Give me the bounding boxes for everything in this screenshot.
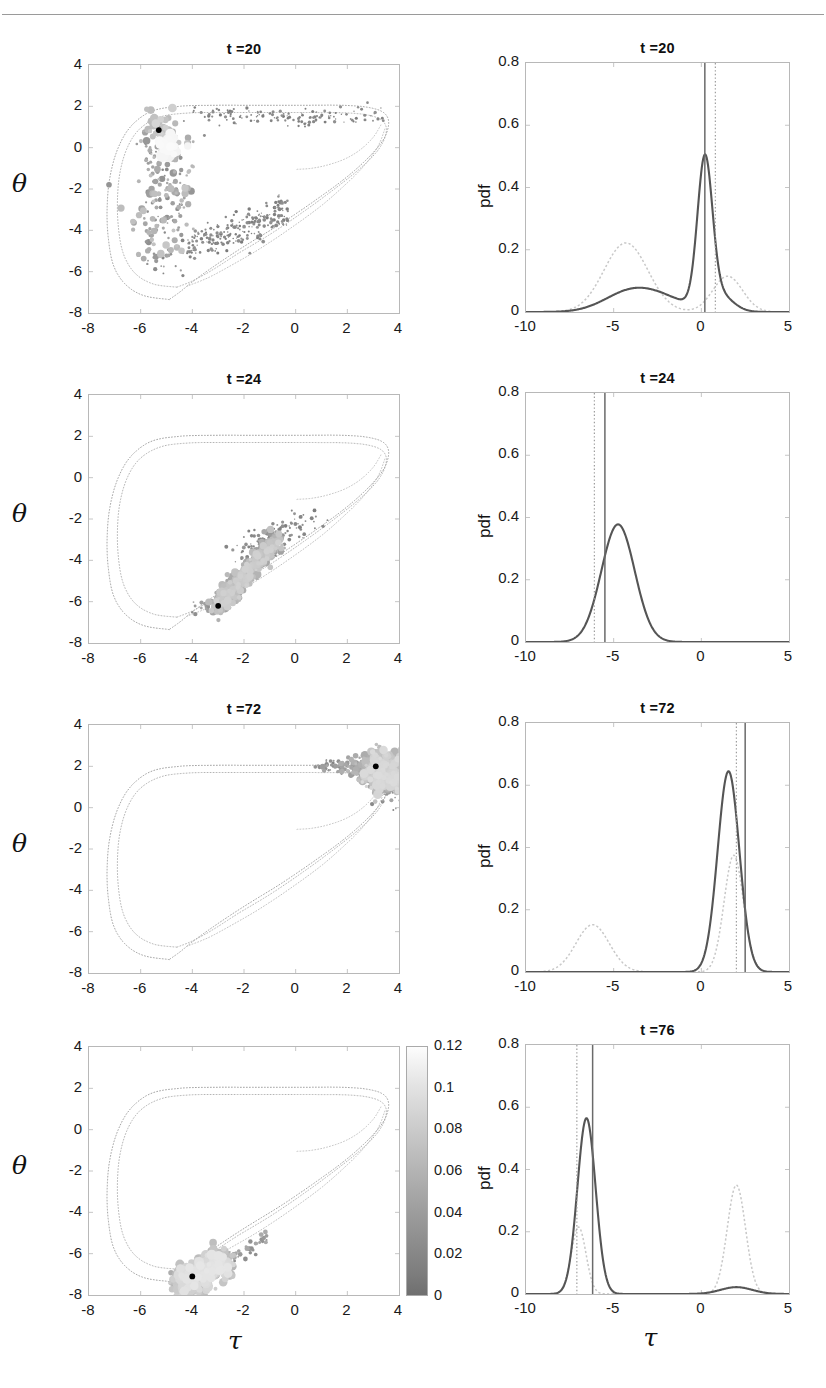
ytick-pdf-t24-0: 0	[479, 631, 519, 648]
colorbar-tick-1: 0.1	[434, 1079, 454, 1095]
title-pdf-t24: t =24	[578, 370, 738, 386]
plot-pdf-t72	[525, 722, 790, 973]
xtick-phase-space-t72--8: -8	[68, 979, 108, 996]
xtick-phase-space-t72-2: 2	[326, 979, 366, 996]
prior-pdf-curve	[526, 855, 789, 972]
title-phase-space-t24: t =24	[164, 371, 324, 387]
xtick-pdf-t20-0: 0	[680, 317, 720, 334]
ytick-phase-space-t20-2: 2	[48, 96, 82, 113]
title-phase-space-t72: t =72	[164, 701, 324, 717]
ytick-phase-space-t76-4: 4	[48, 1037, 82, 1054]
colorbar-tick-0: 0.12	[434, 1037, 462, 1053]
xtick-pdf-t24--10: -10	[505, 647, 545, 664]
colorbar-tick-4: 0.04	[434, 1204, 462, 1220]
ytick-phase-space-t20--6: -6	[48, 262, 82, 279]
xtick-phase-space-t76--2: -2	[223, 1301, 263, 1318]
plot-phase-space-t72	[88, 724, 400, 974]
ytick-phase-space-t20-4: 4	[48, 55, 82, 72]
xtick-phase-space-t24--4: -4	[171, 649, 211, 666]
plot-pdf-t76	[525, 1044, 790, 1295]
ytick-phase-space-t72--4: -4	[48, 880, 82, 897]
ytick-phase-space-t72--2: -2	[48, 839, 82, 856]
ytick-phase-space-t24-0: 0	[48, 468, 82, 485]
posterior-pdf-curve	[526, 771, 789, 972]
xtick-phase-space-t76-2: 2	[326, 1301, 366, 1318]
xtick-phase-space-t76--8: -8	[68, 1301, 108, 1318]
xtick-phase-space-t24-2: 2	[326, 649, 366, 666]
xtick-pdf-t76--10: -10	[505, 1299, 545, 1316]
xtick-phase-space-t24-0: 0	[275, 649, 315, 666]
xtick-phase-space-t20--6: -6	[120, 319, 160, 336]
plot-phase-space-t24	[88, 394, 400, 644]
posterior-pdf-curve	[526, 1118, 789, 1294]
xtick-phase-space-t20-0: 0	[275, 319, 315, 336]
ylabel-pdf-t20: pdf	[475, 184, 495, 208]
ylabel-phase-space-t76: θ	[12, 1151, 27, 1180]
title-pdf-t20: t =20	[578, 40, 738, 56]
ytick-phase-space-t76--8: -8	[48, 1285, 82, 1302]
plot-pdf-t24	[525, 392, 790, 643]
ytick-pdf-t24-0.8: 0.8	[479, 382, 519, 399]
ylabel-pdf-t76: pdf	[475, 1166, 495, 1190]
ylabel-phase-space-t72: θ	[12, 829, 27, 858]
xtick-pdf-t76-5: 5	[768, 1299, 808, 1316]
ytick-phase-space-t24--4: -4	[48, 550, 82, 567]
ytick-phase-space-t20--2: -2	[48, 179, 82, 196]
ylabel-phase-space-t24: θ	[12, 499, 27, 528]
xtick-phase-space-t20--2: -2	[223, 319, 263, 336]
ytick-phase-space-t20--4: -4	[48, 220, 82, 237]
ytick-phase-space-t72-0: 0	[48, 798, 82, 815]
posterior-pdf-curve	[526, 524, 789, 642]
xtick-phase-space-t24-4: 4	[378, 649, 418, 666]
ytick-pdf-t76-0.6: 0.6	[479, 1096, 519, 1113]
ytick-phase-space-t24-2: 2	[48, 426, 82, 443]
xtick-pdf-t72--5: -5	[593, 977, 633, 994]
ytick-pdf-t20-0.8: 0.8	[479, 52, 519, 69]
ensemble-scatter	[106, 101, 385, 277]
figure-page: t =20-8-6-4-2024-8-6-4-2024θt =2000.20.4…	[0, 0, 826, 1388]
ytick-pdf-t20-0: 0	[479, 301, 519, 318]
ytick-pdf-t20-0.2: 0.2	[479, 239, 519, 256]
ytick-phase-space-t76--4: -4	[48, 1202, 82, 1219]
xtick-phase-space-t20-2: 2	[326, 319, 366, 336]
ytick-pdf-t72-0.2: 0.2	[479, 899, 519, 916]
xtick-pdf-t24-0: 0	[680, 647, 720, 664]
colorbar-tick-3: 0.06	[434, 1162, 462, 1178]
ytick-phase-space-t24--2: -2	[48, 509, 82, 526]
ytick-pdf-t72-0: 0	[479, 961, 519, 978]
ytick-phase-space-t24--8: -8	[48, 633, 82, 650]
xtick-phase-space-t76--6: -6	[120, 1301, 160, 1318]
xtick-pdf-t24-5: 5	[768, 647, 808, 664]
xtick-phase-space-t24--2: -2	[223, 649, 263, 666]
ytick-phase-space-t20-0: 0	[48, 138, 82, 155]
xtick-phase-space-t76--4: -4	[171, 1301, 211, 1318]
xtick-pdf-t20--5: -5	[593, 317, 633, 334]
ytick-pdf-t24-0.6: 0.6	[479, 444, 519, 461]
xtick-phase-space-t76-0: 0	[275, 1301, 315, 1318]
xtick-pdf-t76-0: 0	[680, 1299, 720, 1316]
page-header-rule	[2, 14, 824, 15]
ytick-phase-space-t72-2: 2	[48, 756, 82, 773]
xtick-phase-space-t20--8: -8	[68, 319, 108, 336]
ytick-pdf-t76-0.8: 0.8	[479, 1034, 519, 1051]
ylabel-pdf-t24: pdf	[475, 514, 495, 538]
xtick-pdf-t20--10: -10	[505, 317, 545, 334]
ytick-phase-space-t72--8: -8	[48, 963, 82, 980]
ytick-pdf-t76-0.2: 0.2	[479, 1221, 519, 1238]
ylabel-phase-space-t20: θ	[12, 169, 27, 198]
prior-pdf-curve	[526, 243, 789, 312]
xtick-pdf-t72--10: -10	[505, 977, 545, 994]
attractor-curve	[107, 105, 389, 300]
xtick-phase-space-t72-0: 0	[275, 979, 315, 996]
xtick-phase-space-t76-4: 4	[378, 1301, 418, 1318]
ytick-phase-space-t24-4: 4	[48, 385, 82, 402]
title-pdf-t72: t =72	[578, 700, 738, 716]
xtick-phase-space-t24--8: -8	[68, 649, 108, 666]
plot-pdf-t20	[525, 62, 790, 313]
attractor-curve	[107, 1087, 389, 1282]
ytick-phase-space-t24--6: -6	[48, 592, 82, 609]
ytick-pdf-t76-0: 0	[479, 1283, 519, 1300]
attractor-curve	[107, 435, 389, 629]
ensemble-scatter	[191, 509, 328, 623]
ytick-phase-space-t76-0: 0	[48, 1120, 82, 1137]
